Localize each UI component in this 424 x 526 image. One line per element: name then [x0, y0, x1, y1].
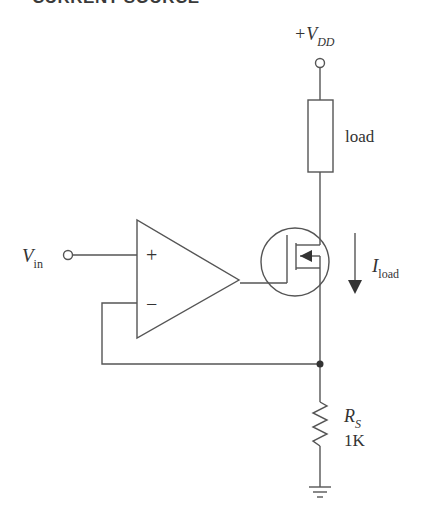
vdd-terminal	[316, 59, 325, 68]
opamp	[137, 220, 239, 338]
vin-label: Vin	[22, 245, 43, 271]
vin-terminal	[64, 251, 73, 260]
supply-label: +VDD	[294, 24, 335, 49]
circuit-diagram: +VDD load Vin + − Iload RS 1K	[0, 0, 424, 526]
current-label: Iload	[371, 255, 399, 281]
ground-icon	[309, 487, 331, 497]
load-label: load	[345, 127, 375, 146]
current-arrow-head	[348, 280, 362, 294]
sense-resistor	[313, 402, 327, 446]
rs-label: RS	[343, 406, 361, 431]
opamp-plus: +	[146, 244, 157, 266]
opamp-minus: −	[146, 293, 157, 315]
feedback-wire	[102, 303, 320, 364]
mosfet	[240, 228, 329, 296]
junction-dot	[317, 361, 324, 368]
mosfet-arrow	[300, 250, 312, 262]
rs-value: 1K	[344, 431, 366, 450]
load-resistor	[308, 100, 333, 172]
